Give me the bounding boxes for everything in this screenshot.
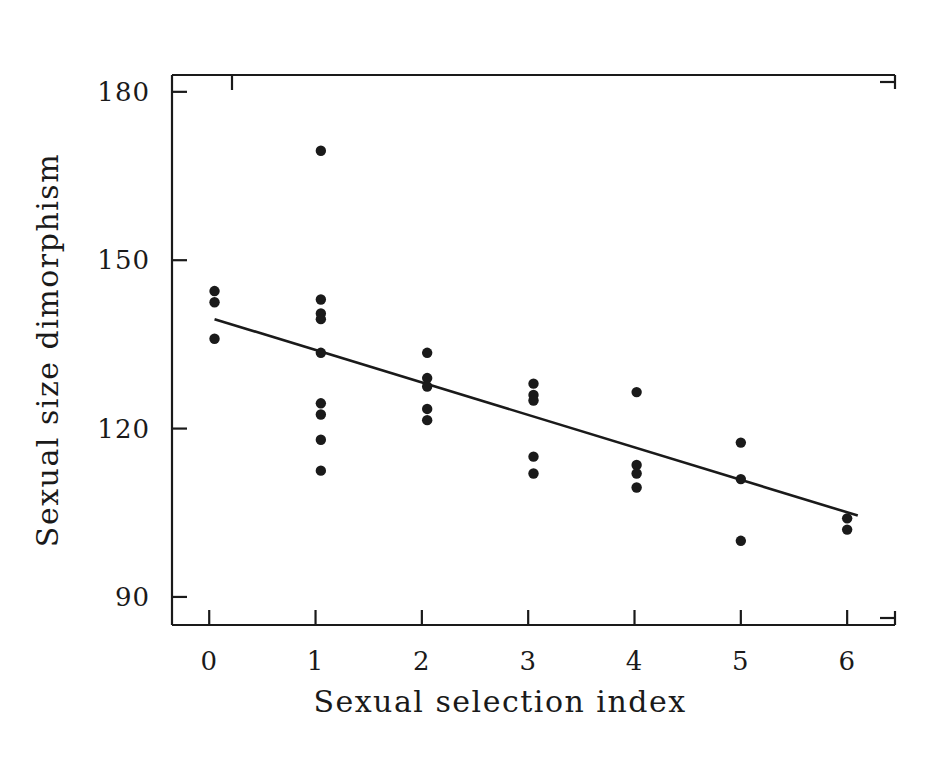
x-tick-label: 1 xyxy=(307,646,325,676)
axis-ticks xyxy=(172,75,895,625)
data-point xyxy=(422,404,432,414)
y-tick-label: 150 xyxy=(97,245,150,275)
data-point xyxy=(209,297,219,307)
data-point xyxy=(736,437,746,447)
data-point xyxy=(316,294,326,304)
data-point xyxy=(316,348,326,358)
data-point xyxy=(422,415,432,425)
data-point xyxy=(209,286,219,296)
data-point xyxy=(528,468,538,478)
y-axis-tick-labels: 90120150180 xyxy=(97,77,150,612)
x-tick-label: 5 xyxy=(732,646,750,676)
data-point xyxy=(209,334,219,344)
y-tick-label: 180 xyxy=(97,77,150,107)
x-tick-label: 0 xyxy=(200,646,218,676)
data-point xyxy=(842,513,852,523)
data-point xyxy=(316,409,326,419)
data-point xyxy=(631,387,641,397)
data-point xyxy=(842,524,852,534)
data-point xyxy=(528,378,538,388)
data-point xyxy=(422,348,432,358)
data-point xyxy=(316,314,326,324)
y-tick-label: 90 xyxy=(115,582,150,612)
x-tick-label: 6 xyxy=(838,646,856,676)
regression-line xyxy=(215,319,858,515)
data-point xyxy=(528,451,538,461)
y-axis-title: Sexual size dimorphism xyxy=(30,153,65,547)
data-point xyxy=(316,146,326,156)
data-point xyxy=(422,381,432,391)
data-point xyxy=(316,465,326,475)
data-point xyxy=(316,435,326,445)
y-tick-label: 120 xyxy=(97,414,150,444)
scatter-plot-figure: 90120150180 0123456 Sexual selection ind… xyxy=(0,0,948,763)
data-point xyxy=(631,468,641,478)
data-point xyxy=(736,474,746,484)
x-tick-label: 2 xyxy=(413,646,431,676)
x-tick-label: 4 xyxy=(626,646,644,676)
x-axis-tick-labels: 0123456 xyxy=(200,646,855,676)
x-tick-label: 3 xyxy=(519,646,537,676)
regression-line-path xyxy=(215,319,858,515)
data-point xyxy=(316,398,326,408)
data-point xyxy=(528,395,538,405)
axes-frame xyxy=(172,75,895,625)
data-point xyxy=(736,536,746,546)
x-axis-title: Sexual selection index xyxy=(313,684,686,719)
plot-canvas: 90120150180 0123456 Sexual selection ind… xyxy=(0,0,948,763)
data-point xyxy=(631,482,641,492)
